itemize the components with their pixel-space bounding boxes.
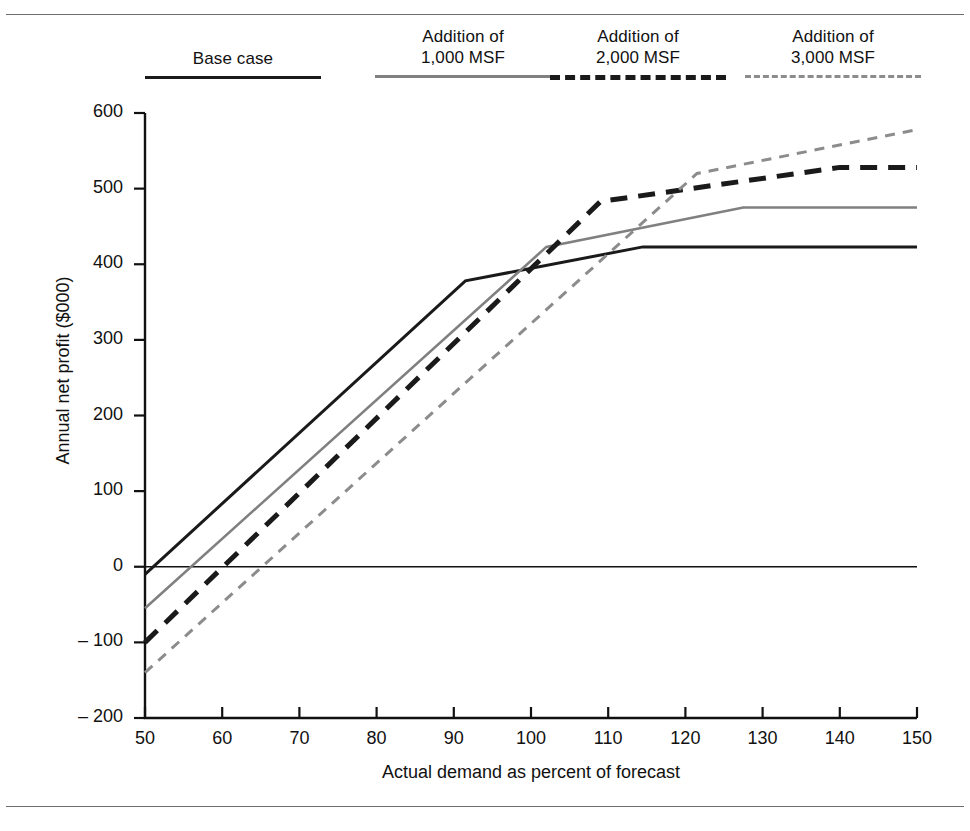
series-layer (145, 130, 917, 673)
plot-area: 6005004003002001000– 100– 200 5060708090… (0, 0, 970, 831)
y-tick-label: 0 (53, 555, 123, 576)
x-tick-label: 80 (347, 728, 407, 749)
chart-canvas (0, 0, 970, 831)
y-tick-label: – 100 (53, 630, 123, 651)
x-tick-label: 130 (733, 728, 793, 749)
y-tick-label: 500 (53, 177, 123, 198)
y-axis-title: Annual net profit ($000) (53, 246, 74, 496)
figure-container: Base case Addition of 1,000 MSF Addition… (0, 0, 970, 831)
y-tick-label: – 200 (53, 706, 123, 727)
x-axis-title: Actual demand as percent of forecast (145, 762, 917, 783)
x-tick-label: 150 (887, 728, 947, 749)
series-line-base-case (145, 247, 917, 574)
x-tick-label: 50 (115, 728, 175, 749)
y-tick-label: 600 (53, 101, 123, 122)
x-tick-label: 90 (424, 728, 484, 749)
x-tick-label: 100 (501, 728, 561, 749)
x-tick-label: 120 (655, 728, 715, 749)
x-tick-label: 70 (269, 728, 329, 749)
x-tick-label: 140 (810, 728, 870, 749)
x-tick-label: 60 (192, 728, 252, 749)
series-line-addition-of-2-000-msf (145, 167, 917, 642)
axis-layer (134, 113, 917, 718)
axis-spines (145, 113, 917, 718)
x-tick-label: 110 (578, 728, 638, 749)
series-line-addition-of-3-000-msf (145, 130, 917, 673)
